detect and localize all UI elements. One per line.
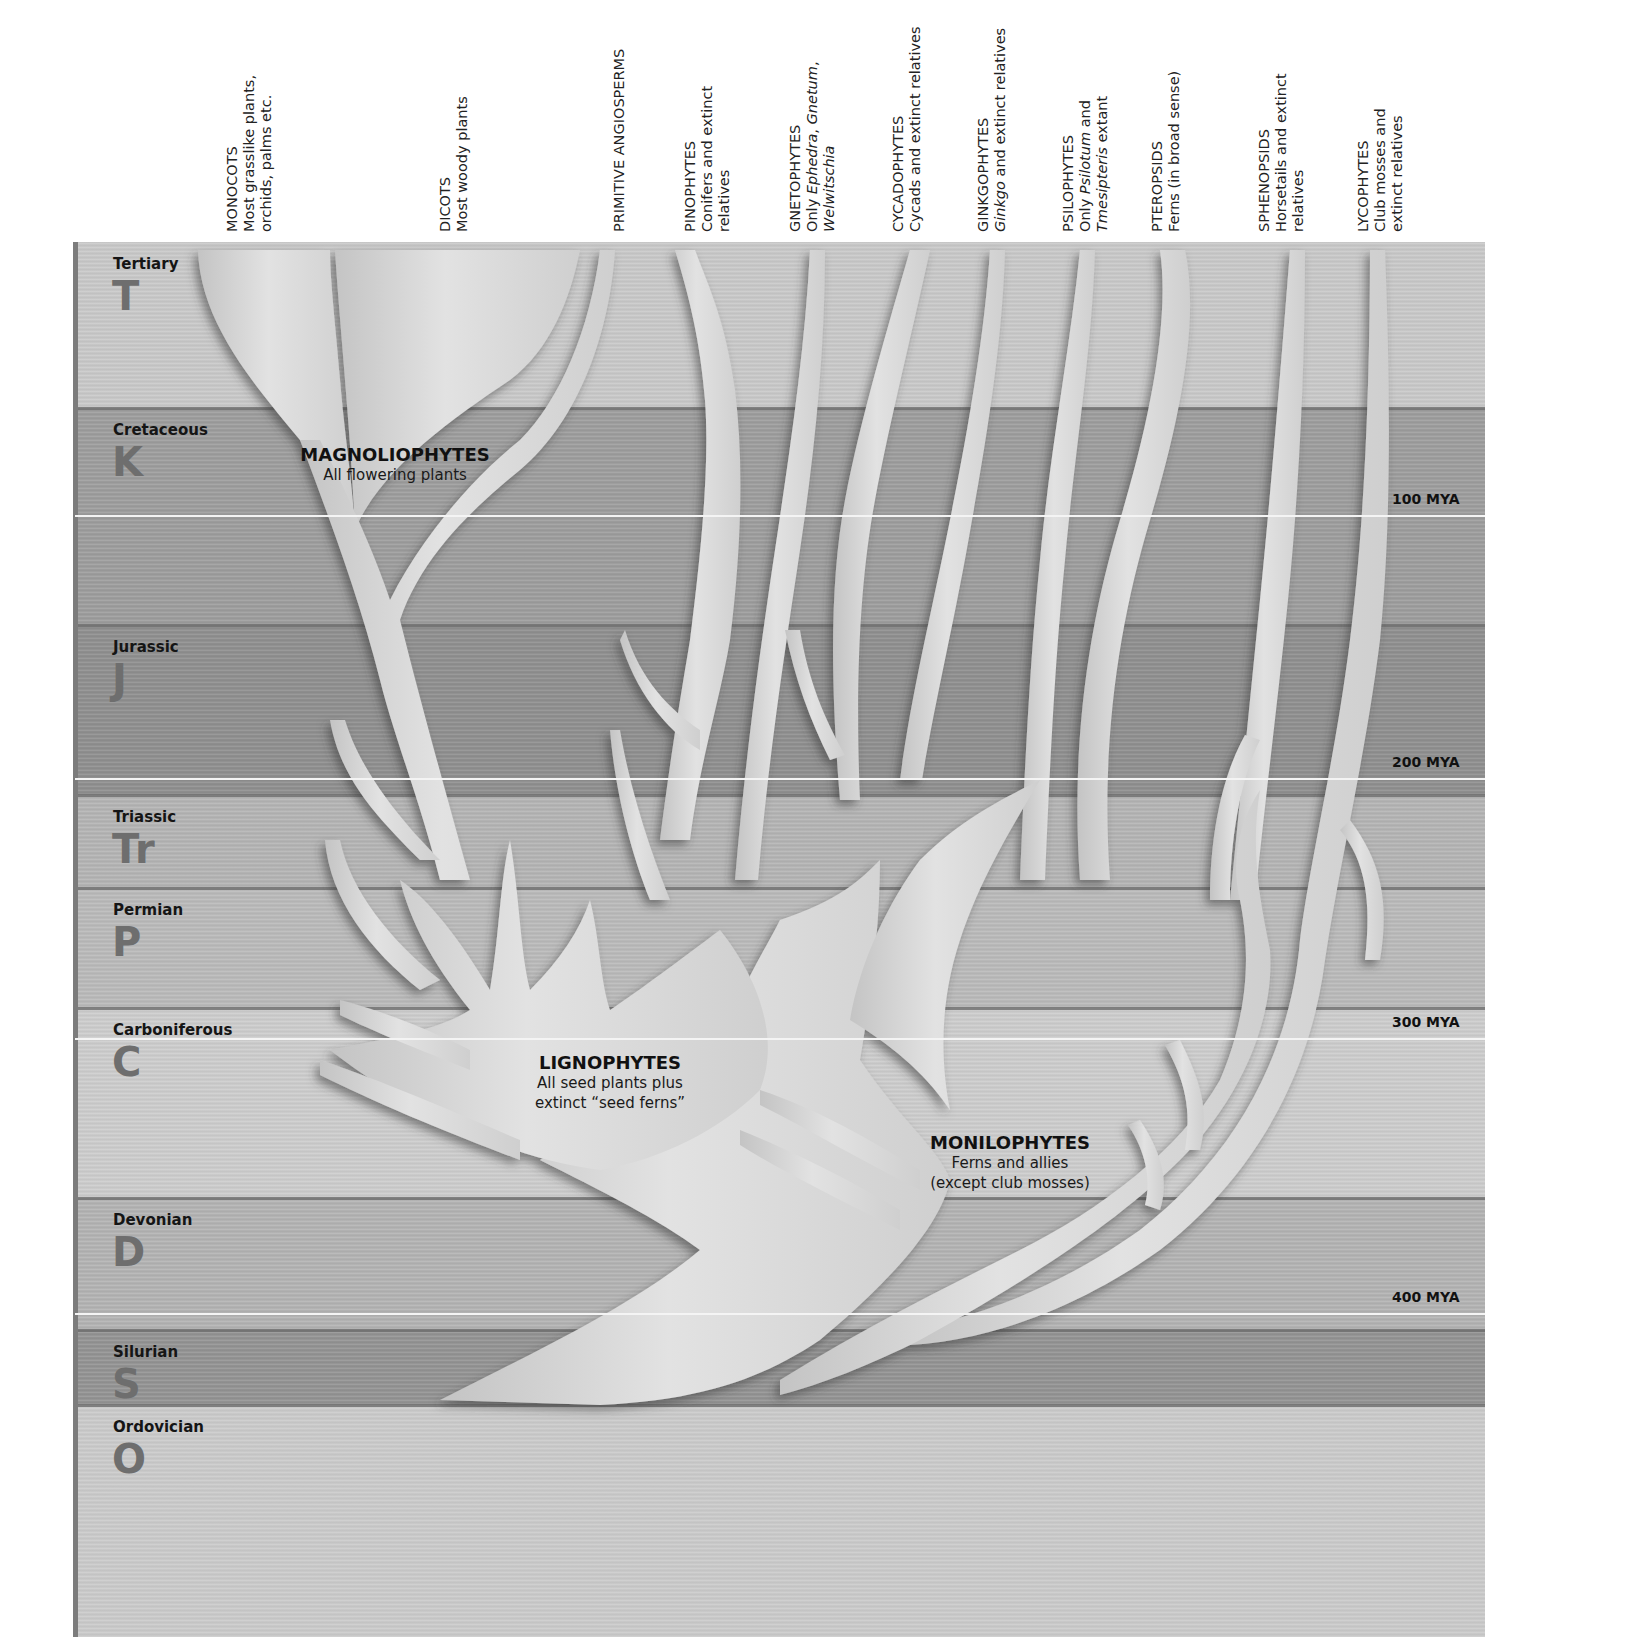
magnoliophytes-title: MAGNOLIOPHYTES	[300, 444, 490, 465]
mya-label: 400 MYA	[1392, 1289, 1460, 1305]
column-header-sphenopsids: SPHENOPSIDSHorsetails and extinctrelativ…	[1256, 73, 1307, 232]
column-title: LYCOPHYTES	[1355, 108, 1372, 232]
mya-line	[75, 1313, 1485, 1315]
column-header-gnetophytes: GNETOPHYTESOnly Ephedra, Gnetum,Welwitsc…	[787, 61, 838, 232]
column-header-primitive-angiosperms: PRIMITIVE ANGIOSPERMS	[611, 49, 628, 232]
column-title: GNETOPHYTES	[787, 61, 804, 232]
column-description: orchids, palms etc.	[258, 75, 275, 232]
mya-line	[75, 778, 1485, 780]
mya-line	[75, 1038, 1485, 1040]
monilophytes-subtitle-1: Ferns and allies	[910, 1153, 1110, 1173]
pinophytes-branch	[660, 250, 740, 840]
mya-label: 300 MYA	[1392, 1014, 1460, 1030]
column-title: DICOTS	[437, 96, 454, 232]
tree-branches	[198, 250, 1389, 1405]
pteropsids-branch	[1077, 250, 1190, 880]
column-title: PINOPHYTES	[682, 86, 699, 232]
column-description: Conifers and extinct	[699, 86, 716, 232]
period-name-cretaceous: Cretaceous	[113, 421, 208, 439]
column-description: relatives	[1290, 73, 1307, 232]
column-title: PSILOPHYTES	[1060, 96, 1077, 232]
monilophytes-label: MONILOPHYTES Ferns and allies (except cl…	[910, 1132, 1110, 1193]
column-description: Most grasslike plants,	[241, 75, 258, 232]
mya-label: 200 MYA	[1392, 754, 1460, 770]
period-name-tertiary: Tertiary	[113, 255, 178, 273]
sphenopsids-branch	[1230, 250, 1305, 900]
period-abbr-permian: P	[112, 922, 141, 962]
column-description: Only Psilotum and	[1077, 96, 1094, 232]
period-name-permian: Permian	[113, 901, 183, 919]
period-abbr-devonian: D	[112, 1232, 145, 1272]
phylogenetic-tree	[0, 0, 1630, 1637]
lignophytes-label: LIGNOPHYTES All seed plants plus extinct…	[510, 1052, 710, 1113]
lignophyte-blob	[330, 840, 768, 1170]
column-description: Tmesipteris extant	[1094, 96, 1111, 232]
period-abbr-carboniferous: C	[112, 1042, 141, 1082]
period-abbr-ordovician: O	[112, 1439, 146, 1479]
lignophytes-title: LIGNOPHYTES	[510, 1052, 710, 1073]
column-description: Cycads and extinct relatives	[907, 27, 924, 233]
monilophytes-title: MONILOPHYTES	[910, 1132, 1110, 1153]
lignophytes-subtitle-1: All seed plants plus	[510, 1073, 710, 1093]
column-title: PRIMITIVE ANGIOSPERMS	[611, 49, 628, 232]
column-description: Only Ephedra, Gnetum,	[804, 61, 821, 232]
period-name-silurian: Silurian	[113, 1343, 178, 1361]
column-header-monocots: MONOCOTSMost grasslike plants,orchids, p…	[224, 75, 275, 232]
period-name-jurassic: Jurassic	[113, 638, 179, 656]
column-title: GINKGOPHYTES	[975, 28, 992, 232]
period-abbr-silurian: S	[112, 1364, 141, 1404]
mya-line	[75, 515, 1485, 517]
column-description: Club mosses and	[1372, 108, 1389, 232]
side-branch	[610, 730, 670, 900]
column-description: Most woody plants	[454, 96, 471, 232]
column-title: PTEROPSIDS	[1149, 71, 1166, 232]
period-name-triassic: Triassic	[113, 808, 176, 826]
column-description: Ferns (in broad sense)	[1166, 71, 1183, 232]
column-header-psilophytes: PSILOPHYTESOnly Psilotum andTmesipteris …	[1060, 96, 1111, 232]
column-title: SPHENOPSIDS	[1256, 73, 1273, 232]
column-header-pteropsids: PTEROPSIDSFerns (in broad sense)	[1149, 71, 1183, 232]
column-description: Welwitschia	[821, 61, 838, 232]
magnoliophytes-label: MAGNOLIOPHYTES All flowering plants	[300, 444, 490, 485]
monilophytes-subtitle-2: (except club mosses)	[910, 1173, 1110, 1193]
period-abbr-cretaceous: K	[112, 442, 143, 482]
column-title: MONOCOTS	[224, 75, 241, 232]
column-header-ginkgophytes: GINKGOPHYTESGinkgo and extinct relatives	[975, 28, 1009, 232]
period-name-devonian: Devonian	[113, 1211, 192, 1229]
column-description: Horsetails and extinct	[1273, 73, 1290, 232]
period-name-carboniferous: Carboniferous	[113, 1021, 232, 1039]
plant-evolution-diagram: TertiaryTCretaceousKJurassicJTriassicTrP…	[0, 0, 1630, 1637]
column-title: CYCADOPHYTES	[890, 27, 907, 233]
period-abbr-jurassic: J	[112, 659, 127, 699]
column-header-cycadophytes: CYCADOPHYTESCycads and extinct relatives	[890, 27, 924, 233]
period-name-ordovician: Ordovician	[113, 1418, 204, 1436]
period-abbr-tertiary: T	[112, 276, 139, 316]
mya-label: 100 MYA	[1392, 491, 1460, 507]
column-header-pinophytes: PINOPHYTESConifers and extinctrelatives	[682, 86, 733, 232]
lignophytes-subtitle-2: extinct “seed ferns”	[510, 1093, 710, 1113]
magnoliophytes-subtitle: All flowering plants	[300, 465, 490, 485]
dicots-branch	[335, 250, 580, 530]
gnetophytes-branch	[735, 250, 825, 880]
monilophyte-body-2	[850, 780, 1040, 1110]
column-description: Ginkgo and extinct relatives	[992, 28, 1009, 232]
column-header-lycophytes: LYCOPHYTESClub mosses andextinct relativ…	[1355, 108, 1406, 232]
column-header-dicots: DICOTSMost woody plants	[437, 96, 471, 232]
column-description: extinct relatives	[1389, 108, 1406, 232]
side-branch	[1340, 820, 1384, 960]
column-description: relatives	[716, 86, 733, 232]
period-abbr-triassic: Tr	[112, 829, 155, 869]
